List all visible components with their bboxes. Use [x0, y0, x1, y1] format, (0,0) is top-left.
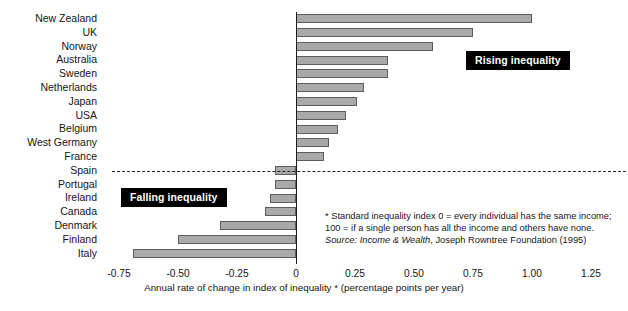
rising-inequality-callout: Rising inequality: [466, 51, 570, 70]
x-tick-label: 0.25: [345, 268, 365, 279]
bar: [296, 83, 364, 92]
x-tick-label: 1.25: [581, 268, 601, 279]
bar-row: [0, 191, 628, 205]
x-tick-label: 0.75: [463, 268, 483, 279]
footnote-block: * Standard inequality index 0 = every in…: [325, 210, 615, 247]
bar: [296, 138, 329, 147]
bar: [296, 14, 532, 23]
source-lead: Source:: [325, 235, 357, 245]
rising-falling-divider: [112, 171, 626, 172]
bar-row: [0, 12, 628, 26]
bar-row: [0, 136, 628, 150]
bar: [296, 97, 357, 106]
falling-inequality-callout: Falling inequality: [121, 188, 227, 207]
bar-row: [0, 26, 628, 40]
footnote-source-line: Source: Income & Wealth, Joseph Rowntree…: [325, 234, 615, 246]
bar-row: [0, 247, 628, 261]
bar-row: [0, 122, 628, 136]
bar-row: [0, 109, 628, 123]
inequality-bar-chart: New ZealandUKNorwayAustraliaSwedenNether…: [0, 0, 628, 311]
source-rest: , Joseph Rowntree Foundation (1995): [430, 235, 586, 245]
bar: [270, 194, 296, 203]
footnote-line-2: 100 = if a single person has all the inc…: [325, 222, 615, 234]
x-tick-label: -0.75: [107, 268, 130, 279]
bar: [265, 207, 296, 216]
x-tick-label: -0.50: [166, 268, 189, 279]
bar: [296, 56, 388, 65]
x-tick-label: -0.25: [225, 268, 248, 279]
x-axis-title: Annual rate of change in index of inequa…: [0, 282, 628, 293]
bar-row: [0, 150, 628, 164]
bar: [220, 221, 296, 230]
source-title: Income & Wealth: [360, 235, 431, 245]
footnote-line-1: * Standard inequality index 0 = every in…: [325, 210, 615, 222]
x-tick-label: 0.50: [404, 268, 424, 279]
bar: [296, 42, 433, 51]
x-tick-label: 0: [293, 268, 299, 279]
bar-row: [0, 95, 628, 109]
bar: [133, 249, 296, 258]
x-tick-label: 1.00: [522, 268, 542, 279]
bar-row: [0, 178, 628, 192]
zero-axis-line: [296, 12, 297, 264]
bar: [296, 69, 388, 78]
x-axis-tick-labels: -0.75-0.50-0.2500.250.500.751.001.25: [0, 268, 628, 282]
bar: [296, 125, 338, 134]
bar: [296, 152, 324, 161]
bar: [296, 111, 346, 120]
bar: [296, 28, 473, 37]
bar: [275, 180, 296, 189]
bar-row: [0, 81, 628, 95]
bar: [178, 235, 296, 244]
x-axis-title-text: Annual rate of change in index of inequa…: [144, 282, 464, 293]
